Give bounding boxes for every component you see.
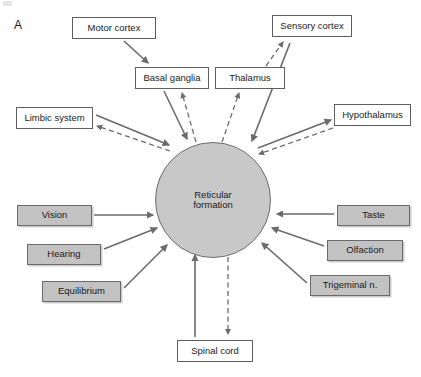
- node-hypothalamus[interactable]: Hypothalamus: [334, 104, 411, 126]
- node-vision[interactable]: Vision: [17, 205, 92, 226]
- arrow-olfaction-to-hub: [272, 228, 324, 246]
- node-motor-cortex[interactable]: Motor cortex: [72, 17, 156, 39]
- node-hearing[interactable]: Hearing: [27, 244, 101, 265]
- node-trigeminal-n[interactable]: Trigeminal n.: [310, 275, 390, 296]
- arrow-hearing-to-hub: [104, 228, 157, 249]
- node-reticular-formation[interactable]: Reticular formation: [155, 142, 271, 258]
- arrow-hub-to-hypothalamus: [258, 120, 331, 148]
- arrow-limbic-system-to-hub: [96, 115, 169, 145]
- node-sensory-cortex[interactable]: Sensory cortex: [272, 15, 352, 37]
- arrow-thalamus-to-sensory-cortex: [266, 42, 283, 66]
- node-thalamus[interactable]: Thalamus: [215, 67, 285, 89]
- node-label: Basal ganglia: [143, 73, 200, 83]
- node-label: Spinal cord: [191, 346, 239, 356]
- node-label: Taste: [362, 210, 385, 220]
- arrow-motor-cortex-to-basal-ganglia: [124, 41, 148, 63]
- node-label: Limbic system: [24, 113, 84, 123]
- node-label: Sensory cortex: [280, 21, 343, 31]
- reticular-formation-diagram: A Reticular formation Motor cortexSensor…: [0, 0, 421, 377]
- node-label: Trigeminal n.: [323, 280, 378, 290]
- node-label: Motor cortex: [88, 23, 141, 33]
- node-olfaction[interactable]: Olfaction: [327, 240, 403, 261]
- arrow-trigeminal-to-hub: [262, 243, 307, 283]
- arrow-hypothalamus-to-hub: [259, 128, 333, 154]
- node-label: Hypothalamus: [342, 110, 403, 120]
- node-taste[interactable]: Taste: [337, 205, 410, 226]
- node-label: Hearing: [47, 249, 80, 259]
- arrow-hub-to-thalamus: [222, 93, 239, 142]
- hub-label-line-2: formation: [193, 200, 233, 210]
- node-label: Equilibrium: [58, 286, 105, 296]
- node-basal-ganglia[interactable]: Basal ganglia: [135, 67, 209, 89]
- node-spinal-cord[interactable]: Spinal cord: [177, 340, 253, 362]
- node-label: Vision: [42, 210, 68, 220]
- node-label: Olfaction: [346, 245, 384, 255]
- node-label: Thalamus: [229, 73, 271, 83]
- node-limbic-system[interactable]: Limbic system: [16, 107, 93, 129]
- node-equilibrium[interactable]: Equilibrium: [42, 281, 121, 302]
- arrow-sensory-cortex-to-hub: [252, 43, 290, 141]
- arrow-equilibrium-to-hub: [124, 245, 167, 288]
